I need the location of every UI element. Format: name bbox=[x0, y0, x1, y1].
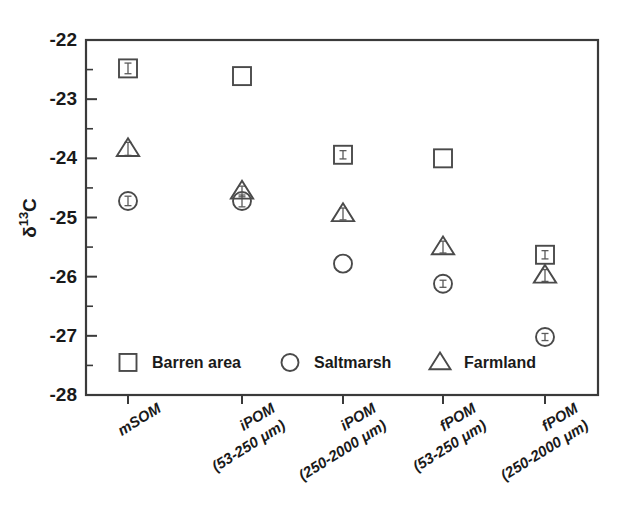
y-tick-label: -23 bbox=[50, 88, 77, 109]
series-farmland bbox=[117, 138, 556, 282]
x-axis-category-labels: mSOMiPOM(53-250 μm)iPOM(250-2000 μm)fPOM… bbox=[114, 399, 591, 484]
data-point-square bbox=[434, 149, 452, 167]
y-tick-label: -27 bbox=[50, 325, 77, 346]
x-axis bbox=[128, 395, 545, 404]
y-tick-label: -22 bbox=[50, 29, 77, 50]
legend-entry-farmland: Farmland bbox=[429, 352, 536, 370]
data-point-circle bbox=[334, 255, 352, 273]
y-tick-label: -26 bbox=[50, 266, 77, 287]
legend: Barren areaSaltmarshFarmland bbox=[120, 352, 537, 371]
square-icon bbox=[120, 354, 137, 371]
x-category-label: iPOM(53-250 μm) bbox=[198, 399, 289, 475]
y-axis: -22-23-24-25-26-27-28 bbox=[50, 29, 97, 405]
data-points-layer bbox=[117, 59, 556, 346]
plot-area-border bbox=[86, 40, 598, 395]
chart-figure: -22-23-24-25-26-27-28 δ13C mSOMiPOM(53-2… bbox=[0, 0, 637, 507]
series-barren-area bbox=[119, 59, 554, 263]
x-category-label: fPOM(250-2000 μm) bbox=[487, 399, 592, 484]
y-tick-label: -28 bbox=[50, 384, 77, 405]
delta-13c-scatter-chart: -22-23-24-25-26-27-28 δ13C mSOMiPOM(53-2… bbox=[0, 0, 637, 507]
y-axis-title: δ13C bbox=[16, 198, 40, 238]
y-tick-label: -24 bbox=[50, 147, 78, 168]
x-category-label: fPOM(53-250 μm) bbox=[399, 399, 490, 475]
legend-entry-barren-area: Barren area bbox=[120, 354, 242, 371]
legend-label: Farmland bbox=[464, 354, 536, 371]
y-tick-label: -25 bbox=[50, 207, 78, 228]
circle-icon bbox=[282, 354, 299, 371]
x-category-label: iPOM(250-2000 μm) bbox=[285, 399, 390, 484]
plot-frame bbox=[86, 40, 598, 395]
legend-entry-saltmarsh: Saltmarsh bbox=[282, 354, 392, 371]
legend-label: Barren area bbox=[152, 354, 241, 371]
data-point-square bbox=[233, 67, 251, 85]
triangle-icon bbox=[429, 352, 450, 369]
delta-glyph: δ bbox=[19, 226, 40, 238]
x-category-label: mSOM bbox=[114, 399, 164, 439]
y-axis-title-text: δ13C bbox=[16, 198, 40, 238]
x-category-line1: mSOM bbox=[114, 399, 164, 439]
element-c: C bbox=[19, 198, 40, 212]
legend-label: Saltmarsh bbox=[314, 354, 391, 371]
superscript-13: 13 bbox=[16, 212, 31, 226]
